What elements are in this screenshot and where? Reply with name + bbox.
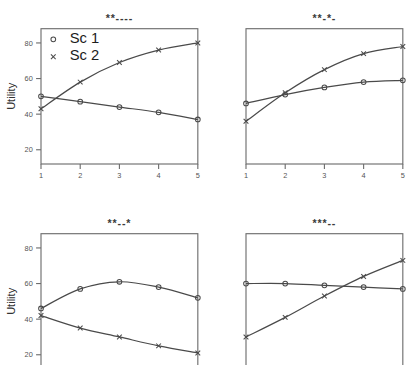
plot-frame <box>41 234 198 365</box>
y-tick-label: 20 <box>25 350 33 359</box>
plot-frame <box>246 29 403 164</box>
legend-label-2: Sc 2 <box>70 47 100 63</box>
panel-canvas-3: **--*1234520406080Utility <box>0 205 205 365</box>
y-tick-label: 60 <box>25 279 33 288</box>
cross-marker <box>117 60 122 65</box>
y-tick-label: 20 <box>25 145 33 154</box>
panel-title: ***-- <box>313 217 337 229</box>
series-line <box>41 96 198 119</box>
x-tick-label: 4 <box>157 171 161 180</box>
plot-panel-4: ***--12345 <box>205 205 410 365</box>
cross-marker <box>322 67 327 72</box>
circle-marker <box>51 37 56 42</box>
plot-frame <box>246 234 403 365</box>
x-tick-label: 2 <box>283 171 287 180</box>
legend-label-1: Sc 1 <box>70 30 100 46</box>
x-tick-label: 4 <box>362 171 366 180</box>
x-tick-label: 1 <box>244 171 248 180</box>
y-axis-label: Utility <box>5 82 17 110</box>
figure-panel-grid: **----1234520406080UtilitySc 1Sc 2**-*-1… <box>0 0 410 365</box>
cross-marker <box>283 315 288 320</box>
panel-canvas-2: **-*-12345 <box>205 0 410 205</box>
y-tick-label: 60 <box>25 74 33 83</box>
x-tick-label: 5 <box>196 171 200 180</box>
panel-title: **--* <box>108 217 132 229</box>
cross-marker <box>322 294 327 299</box>
panel-canvas-4: ***--12345 <box>205 205 410 365</box>
series-line <box>246 260 403 337</box>
plot-panel-3: **--*1234520406080Utility <box>0 205 205 365</box>
series-line <box>41 316 198 353</box>
x-tick-label: 5 <box>401 171 405 180</box>
x-tick-label: 3 <box>322 171 326 180</box>
series-line <box>41 43 198 109</box>
y-tick-label: 40 <box>25 315 33 324</box>
series-line <box>246 47 403 122</box>
y-tick-label: 40 <box>25 110 33 119</box>
series-line <box>246 80 403 103</box>
y-tick-label: 80 <box>25 244 33 253</box>
cross-marker <box>361 274 366 279</box>
x-tick-label: 1 <box>39 171 43 180</box>
x-tick-label: 3 <box>117 171 121 180</box>
series-line <box>41 282 198 309</box>
y-tick-label: 80 <box>25 39 33 48</box>
cross-marker <box>51 54 56 59</box>
panel-title: **-*- <box>313 12 337 24</box>
y-axis-label: Utility <box>5 287 17 315</box>
cross-marker <box>78 80 83 85</box>
panel-canvas-1: **----1234520406080UtilitySc 1Sc 2 <box>0 0 205 205</box>
plot-frame <box>41 29 198 164</box>
panel-title: **---- <box>106 12 133 24</box>
x-tick-label: 2 <box>78 171 82 180</box>
plot-panel-2: **-*-12345 <box>205 0 410 205</box>
plot-panel-1: **----1234520406080UtilitySc 1Sc 2 <box>0 0 205 205</box>
